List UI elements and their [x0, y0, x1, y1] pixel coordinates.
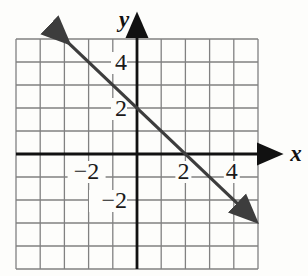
axes: [16, 17, 278, 269]
x-tick-label-2: 2: [177, 158, 189, 184]
y-tick-label--2: −2: [101, 187, 127, 213]
x-tick-label--2: −2: [74, 158, 100, 184]
y-tick-label-4: 4: [115, 49, 127, 75]
coordinate-plane: 42−2−224 y x: [0, 0, 308, 276]
y-axis-label: y: [116, 7, 130, 32]
tick-label-halos: [68, 52, 240, 212]
x-tick-label-4: 4: [226, 158, 238, 184]
x-axis-label: x: [289, 141, 302, 166]
graph-canvas: 42−2−224 y x: [0, 0, 308, 276]
